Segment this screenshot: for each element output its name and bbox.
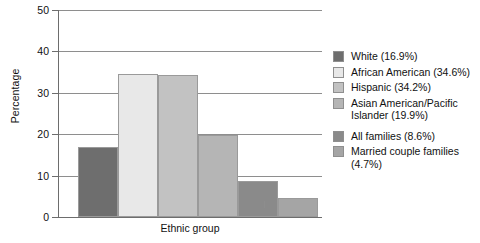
legend-item-label: African American (34.6%)	[351, 66, 470, 79]
legend-swatch-icon	[333, 67, 344, 78]
y-axis-tick-label: 10	[37, 170, 49, 182]
baseline-end-cap	[264, 201, 265, 208]
y-axis-title: Percentage	[9, 51, 21, 141]
bar	[78, 147, 118, 217]
legend-item-label: Married couple families (4.7%)	[351, 145, 480, 170]
plot-area: 50403020100	[58, 10, 322, 217]
legend-item-label: Asian American/Pacific Islander (19.9%)	[351, 97, 480, 122]
legend-item: African American (34.6%)	[333, 66, 480, 79]
legend-item: All families (8.6%)	[333, 130, 480, 143]
legend-swatch-icon	[333, 51, 344, 62]
x-axis-line	[58, 217, 322, 218]
legend-item-label: Hispanic (34.2%)	[351, 81, 431, 94]
legend-item: Married couple families (4.7%)	[333, 145, 480, 170]
bar	[198, 135, 238, 217]
bar	[278, 198, 318, 217]
legend-item: Hispanic (34.2%)	[333, 81, 480, 94]
legend-item: White (16.9%)	[333, 50, 480, 63]
legend-swatch-icon	[333, 146, 344, 157]
bar-series	[58, 10, 322, 217]
legend-item: Asian American/Pacific Islander (19.9%)	[333, 97, 480, 122]
y-axis-tick-label: 30	[37, 87, 49, 99]
bar	[118, 74, 158, 217]
x-axis-title: Ethnic group	[58, 222, 322, 234]
legend-item-label: White (16.9%)	[351, 50, 418, 63]
legend-swatch-icon	[333, 98, 344, 109]
y-axis-tick-label: 50	[37, 4, 49, 16]
bar-chart: Percentage 50403020100 Ethnic group Whit…	[0, 0, 480, 243]
bar	[158, 75, 198, 217]
y-axis-tick-label: 40	[37, 45, 49, 57]
legend-swatch-icon	[333, 131, 344, 142]
y-axis-tick-label: 20	[37, 128, 49, 140]
legend-item-label: All families (8.6%)	[351, 130, 435, 143]
bar	[238, 181, 278, 217]
y-axis-tick-label: 0	[43, 211, 49, 223]
legend: White (16.9%)African American (34.6%)His…	[333, 50, 480, 173]
legend-swatch-icon	[333, 82, 344, 93]
